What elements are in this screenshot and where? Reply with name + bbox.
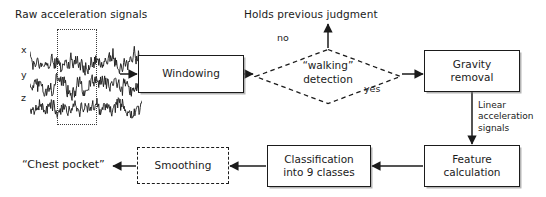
node-gravity-removal-label: Gravityremoval xyxy=(451,58,494,84)
edge-label-linear-acceleration-signals: Linearaccelerationsignals xyxy=(478,100,540,134)
node-windowing[interactable]: Windowing xyxy=(138,55,244,93)
edge-label-yes: yes xyxy=(364,84,380,95)
edge-label-no: no xyxy=(277,33,289,44)
node-smoothing[interactable]: Smoothing xyxy=(137,147,229,184)
node-smoothing-label: Smoothing xyxy=(155,159,212,172)
node-classification-label: Classificationinto 9 classes xyxy=(283,153,354,179)
node-gravity-removal[interactable]: Gravityremoval xyxy=(424,50,520,92)
node-feature-calculation-label: Featurecalculation xyxy=(443,153,500,179)
node-classification[interactable]: Classificationinto 9 classes xyxy=(267,145,371,187)
node-windowing-label: Windowing xyxy=(162,67,220,80)
node-feature-calculation[interactable]: Featurecalculation xyxy=(424,145,520,187)
flowchart-diagram: Raw acceleration signals Holds previous … xyxy=(0,0,546,197)
output-chest-pocket-label: “Chest pocket” xyxy=(22,159,105,172)
